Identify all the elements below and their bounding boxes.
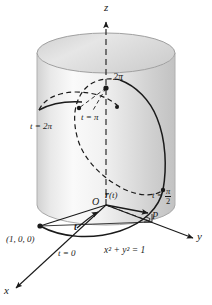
x-axis-label: x	[4, 285, 9, 296]
tangent-vector-label: t	[74, 222, 77, 232]
point-p-label: P	[152, 211, 158, 221]
y-axis-label: y	[197, 231, 202, 242]
t-half-pi-label: t = π 2	[152, 187, 171, 206]
z-tick-label: 2π	[113, 72, 123, 82]
start-point-coords-label: (1, 0, 0)	[6, 235, 35, 244]
t-zero-label: t = 0	[58, 249, 76, 258]
t-half-pi-denominator: 2	[165, 197, 171, 206]
t-half-pi-lhs: t =	[152, 190, 163, 200]
t-half-pi-fraction: π 2	[165, 187, 171, 206]
origin-label: O	[92, 197, 99, 207]
t-two-pi-label: t = 2π	[30, 122, 52, 131]
cylinder-equation-label: x² + y² = 1	[104, 246, 145, 256]
z-axis-label: z	[104, 2, 108, 13]
position-vector-arg: (t)	[109, 190, 118, 200]
figure-canvas	[0, 0, 212, 305]
position-vector-label: r(t)	[105, 190, 117, 200]
marker-t-pi	[115, 105, 119, 109]
helix-cylinder-figure: z y x 2π O P (1, 0, 0) t = 0 t = 2π t = …	[0, 0, 212, 305]
t-pi-label: t = π	[81, 113, 99, 122]
